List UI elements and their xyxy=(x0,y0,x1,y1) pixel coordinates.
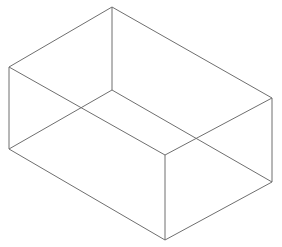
diagram-background xyxy=(0,0,282,247)
figure-canvas: Transparent wireframe rectangular box (c… xyxy=(0,0,282,247)
wireframe-box-diagram: Transparent wireframe rectangular box (c… xyxy=(0,0,282,247)
